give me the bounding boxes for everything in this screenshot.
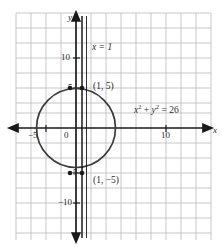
circle-equation-label: x2 + y2 = 26 (134, 104, 179, 116)
circle-equation-y: y2 (152, 105, 159, 115)
graph-figure: · · ·· · · (0, 0, 223, 247)
point-1-5 (80, 86, 85, 91)
point-label-lower: (1, −5) (93, 176, 119, 186)
x-axis-label: x (213, 126, 217, 135)
y-tick-5: 5 (68, 83, 73, 92)
x-tick-neg5: −5 (28, 131, 38, 140)
x-axis-arrow-left (9, 124, 18, 132)
coordinate-plane (0, 0, 223, 247)
circle-equation-plus: + (141, 105, 151, 115)
y-axis-label: y (68, 13, 72, 22)
point-label-upper: (1, 5) (93, 82, 114, 92)
y-axis-arrow-down (72, 233, 80, 242)
vertical-line-x-equals-1 (82, 16, 87, 238)
x-tick-10: 10 (161, 131, 170, 140)
line-equation-text: x = 1 (92, 42, 112, 52)
y-tick-neg10: −10 (58, 198, 72, 207)
point-1-neg5 (80, 171, 85, 176)
circle-equation-rhs: = 26 (159, 105, 179, 115)
y-tick-10: 10 (61, 53, 70, 62)
line-equation-label: x = 1 (92, 43, 112, 53)
x-tick-origin: 0 (64, 131, 69, 140)
grid-lines (16, 13, 211, 240)
y-tick-neg5: −5 (68, 168, 78, 177)
